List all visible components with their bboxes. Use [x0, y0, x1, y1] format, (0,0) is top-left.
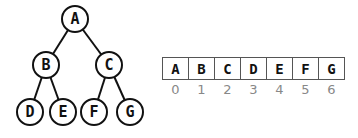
- array-index-label: 1: [197, 82, 205, 97]
- array-cell-2: C2: [215, 58, 241, 98]
- array-representation: A0B1C2D3E4F5G6: [163, 58, 345, 98]
- array-cell-value: D: [249, 61, 257, 77]
- tree-node-e: E: [50, 99, 76, 125]
- node-label: C: [104, 56, 113, 74]
- array-cell-0: A0: [163, 58, 189, 98]
- tree-node-c: C: [96, 52, 122, 78]
- array-index-label: 5: [301, 82, 309, 97]
- node-label: F: [89, 103, 98, 121]
- tree-nodes: ABCDEFG: [17, 6, 143, 125]
- node-label: E: [58, 103, 67, 121]
- array-index-label: 4: [275, 82, 283, 97]
- array-cell-value: E: [275, 61, 283, 77]
- array-index-label: 6: [327, 82, 335, 97]
- tree-node-a: A: [62, 6, 88, 32]
- array-cell-3: D3: [241, 58, 267, 98]
- array-cell-value: A: [171, 61, 180, 77]
- node-label: B: [41, 56, 50, 74]
- tree-node-g: G: [117, 99, 143, 125]
- array-cell-value: F: [301, 61, 309, 77]
- array-cell-value: G: [327, 61, 335, 77]
- array-index-label: 0: [171, 82, 179, 97]
- node-label: G: [125, 103, 134, 121]
- node-label: A: [70, 10, 79, 28]
- tree-node-f: F: [81, 99, 107, 125]
- tree-node-d: D: [17, 99, 43, 125]
- array-cell-5: F5: [293, 58, 319, 98]
- array-cell-6: G6: [319, 58, 345, 98]
- array-index-label: 3: [249, 82, 257, 97]
- array-cell-value: B: [197, 61, 205, 77]
- array-cell-1: B1: [189, 58, 215, 98]
- array-cell-value: C: [223, 61, 231, 77]
- array-cell-4: E4: [267, 58, 293, 98]
- tree-node-b: B: [33, 52, 59, 78]
- array-index-label: 2: [223, 82, 231, 97]
- binary-tree-array-diagram: ABCDEFG A0B1C2D3E4F5G6: [0, 0, 358, 138]
- node-label: D: [25, 103, 34, 121]
